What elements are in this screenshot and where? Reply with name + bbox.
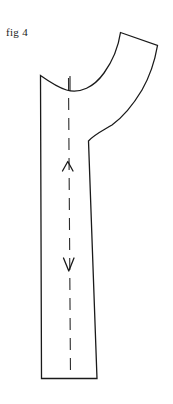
grainline-group [63, 78, 75, 378]
grainline-dashed-line [69, 78, 71, 378]
grainline-arrow-up-icon [63, 162, 74, 172]
pattern-outline-group [41, 33, 158, 379]
grainline-arrow-down-icon [64, 258, 75, 271]
figure-canvas: fig 4 [0, 0, 173, 404]
pattern-drawing [0, 0, 173, 404]
pattern-piece-outline [41, 33, 158, 379]
